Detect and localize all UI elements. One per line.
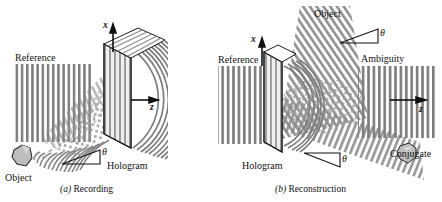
reference-label-a: Reference: [15, 52, 56, 63]
hologram-label-a: Hologram: [107, 160, 148, 171]
figure-canvas: x z θ Reference Object Hologram: [0, 0, 442, 202]
theta-label-a: θ: [102, 146, 107, 157]
ambiguity-beam-b: [358, 66, 436, 138]
theta-label-b-top: θ: [380, 27, 385, 38]
object-label-b: Object: [314, 8, 341, 19]
axis-z-label-b: z: [418, 104, 423, 114]
conjugate-label-b: Conjugate: [390, 148, 432, 159]
caption-a-marker: (a): [60, 184, 71, 195]
axis-z-label-a: z: [149, 102, 154, 112]
holography-figure: x z θ Reference Object Hologram: [0, 0, 442, 202]
caption-b: (b) Reconstruction: [275, 184, 346, 195]
reference-beam-b: [218, 66, 266, 144]
theta-label-b-bottom: θ: [342, 153, 347, 164]
svg-text:(a) Recording: (a) Recording: [60, 184, 113, 195]
svg-text:(b) Reconstruction: (b) Reconstruction: [275, 184, 346, 195]
hologram-label-b: Hologram: [242, 160, 283, 171]
caption-b-text: Reconstruction: [288, 184, 346, 194]
reference-label-b: Reference: [218, 54, 259, 65]
interference-region-b: [280, 78, 364, 134]
caption-a: (a) Recording: [60, 184, 113, 195]
axis-x-label-a: x: [102, 20, 108, 30]
ambiguity-label-b: Ambiguity: [361, 53, 404, 64]
caption-b-marker: (b): [275, 184, 286, 195]
caption-a-text: Recording: [73, 184, 113, 194]
object-label-a: Object: [5, 172, 32, 183]
axis-x-label-b: x: [250, 34, 256, 44]
